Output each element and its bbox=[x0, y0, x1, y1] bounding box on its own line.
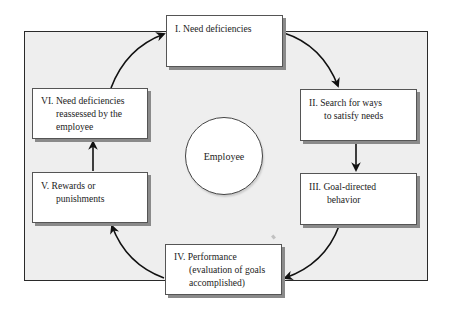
step-iv-line-2: (evaluation of goals bbox=[174, 263, 275, 276]
step-box-i: I. Need deficiencies bbox=[166, 15, 283, 67]
step-i-line-1: I. Need deficiencies bbox=[175, 22, 276, 35]
step-vi-line-1: VI. Need deficiencies bbox=[41, 94, 141, 107]
step-vi-line-3: employee bbox=[41, 120, 141, 133]
step-ii-line-2: to satisfy needs bbox=[309, 109, 410, 122]
step-ii-line-1: II. Search for ways bbox=[309, 96, 410, 109]
employee-circle: Employee bbox=[185, 117, 263, 195]
step-iii-line-2: behavior bbox=[309, 193, 410, 206]
step-box-iii: III. Goal-directed behavior bbox=[300, 173, 417, 225]
step-box-iv: IV. Performance (evaluation of goals acc… bbox=[165, 244, 282, 295]
employee-label: Employee bbox=[204, 151, 245, 162]
step-box-vi: VI. Need deficiencies reassessed by the … bbox=[32, 88, 148, 139]
step-iii-line-1: III. Goal-directed bbox=[309, 180, 410, 193]
step-v-line-2: punishments bbox=[41, 192, 141, 205]
step-v-line-1: V. Rewards or bbox=[41, 179, 141, 192]
step-box-v: V. Rewards or punishments bbox=[32, 172, 148, 223]
step-vi-line-2: reassessed by the bbox=[41, 107, 141, 120]
step-iv-line-1: IV. Performance bbox=[174, 250, 275, 263]
step-box-ii: II. Search for ways to satisfy needs bbox=[300, 89, 417, 141]
step-iv-line-3: accomplished) bbox=[174, 276, 275, 289]
